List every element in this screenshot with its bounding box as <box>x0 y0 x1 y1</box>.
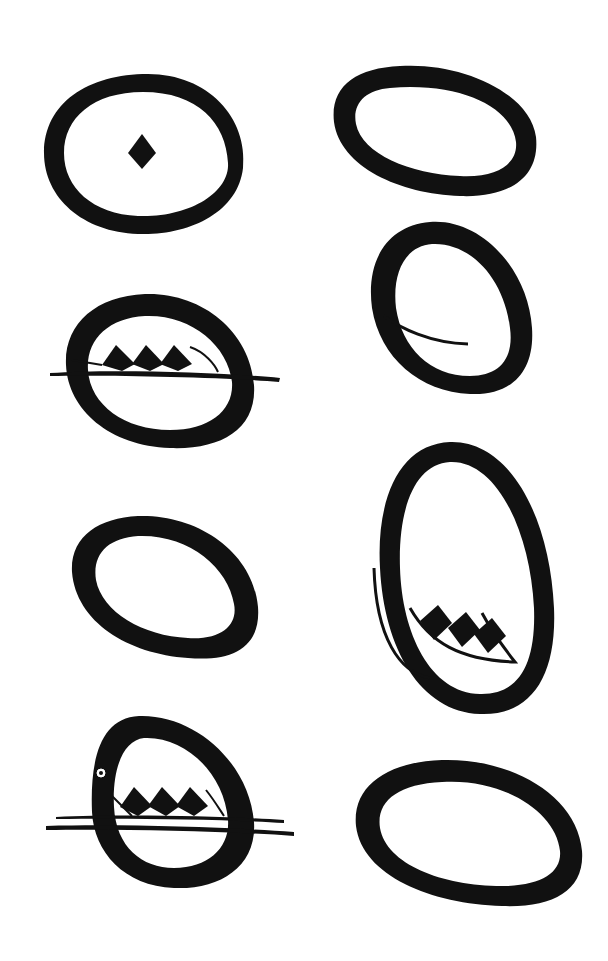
ring-with-diamond-figure <box>38 68 258 238</box>
ring-with-bar-and-triple-diamonds-figure <box>50 290 285 455</box>
ring-with-inner-curve-figure <box>360 218 540 400</box>
drawing-canvas <box>0 0 608 961</box>
ring-with-eye-and-double-bars-figure <box>44 712 299 892</box>
lower-bar <box>46 825 294 836</box>
triple-diamond-icon <box>420 605 506 653</box>
tall-ring-with-triple-diamonds-figure <box>370 438 560 720</box>
plain-ring-3-figure <box>352 756 587 911</box>
triple-diamond-icon <box>102 345 192 371</box>
triple-diamond-icon <box>120 787 208 816</box>
plain-ring-2-figure <box>68 512 263 662</box>
plain-ring-1-figure <box>330 62 545 202</box>
diamond-icon <box>128 134 156 169</box>
